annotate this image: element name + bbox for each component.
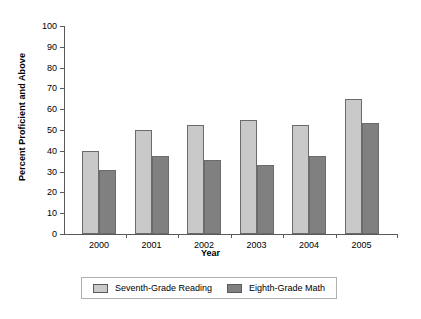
- y-tick: [60, 192, 64, 193]
- y-tick-label: 80: [47, 63, 57, 73]
- plot-area: 0102030405060708090100 20002001200220032…: [64, 26, 385, 234]
- bar: [309, 156, 326, 234]
- bar: [99, 170, 116, 234]
- bar: [345, 99, 362, 234]
- chart-legend: Seventh-Grade Reading Eighth-Grade Math: [81, 277, 337, 299]
- y-axis-line: [64, 26, 65, 234]
- y-tick: [60, 172, 64, 173]
- bar: [240, 120, 257, 234]
- y-tick-label: 10: [47, 208, 57, 218]
- bar: [292, 125, 309, 234]
- bar: [257, 165, 274, 234]
- bar: [204, 160, 221, 234]
- y-tick-label: 100: [42, 21, 57, 31]
- y-tick-label: 20: [47, 187, 57, 197]
- x-tick: [178, 234, 179, 238]
- x-tick: [283, 234, 284, 238]
- y-tick-label: 40: [47, 146, 57, 156]
- y-axis-title: Percent Proficient and Above: [17, 17, 27, 217]
- legend-swatch-math-icon: [227, 284, 242, 293]
- y-tick: [60, 47, 64, 48]
- x-tick: [336, 234, 337, 238]
- legend-swatch-reading-icon: [93, 284, 108, 293]
- y-tick-label: 50: [47, 125, 57, 135]
- y-tick-label: 70: [47, 83, 57, 93]
- x-tick: [126, 234, 127, 238]
- bar: [82, 151, 99, 234]
- x-axis-title: Year: [0, 248, 421, 258]
- bar: [362, 123, 379, 234]
- y-tick: [60, 151, 64, 152]
- y-tick-label: 0: [52, 229, 57, 239]
- x-tick: [231, 234, 232, 238]
- y-tick: [60, 234, 64, 235]
- bar: [187, 125, 204, 234]
- y-tick: [60, 109, 64, 110]
- x-axis-end-tick: [397, 234, 398, 238]
- bar: [135, 130, 152, 234]
- y-tick: [60, 213, 64, 214]
- legend-item-reading: Seventh-Grade Reading: [93, 283, 212, 293]
- y-tick: [60, 88, 64, 89]
- legend-item-math: Eighth-Grade Math: [227, 283, 325, 293]
- legend-label-math: Eighth-Grade Math: [249, 283, 325, 293]
- y-tick: [60, 130, 64, 131]
- y-tick-label: 90: [47, 42, 57, 52]
- legend-label-reading: Seventh-Grade Reading: [115, 283, 212, 293]
- y-tick: [60, 68, 64, 69]
- y-tick-label: 30: [47, 167, 57, 177]
- bar: [152, 156, 169, 234]
- y-tick: [60, 26, 64, 27]
- bar-chart: Percent Proficient and Above 01020304050…: [0, 0, 421, 319]
- y-tick-label: 60: [47, 104, 57, 114]
